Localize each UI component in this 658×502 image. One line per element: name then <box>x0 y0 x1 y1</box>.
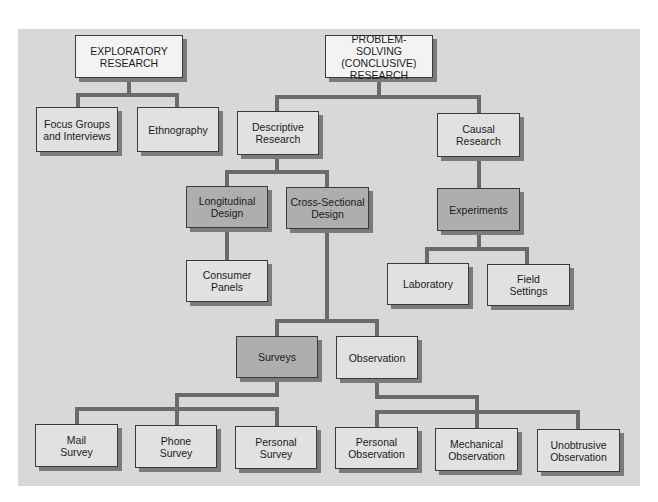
connector <box>175 93 179 107</box>
node-unobtrusive-observation: Unobtrusive Observation <box>537 429 620 472</box>
node-label: Laboratory <box>403 278 453 290</box>
connector <box>375 395 479 399</box>
connector <box>175 393 279 397</box>
connector <box>375 410 379 427</box>
node-label: Mechanical Observation <box>448 438 505 462</box>
connector <box>275 407 279 426</box>
connector <box>225 228 229 260</box>
node-mail-survey: Mail Survey <box>35 424 118 467</box>
node-longitudinal-design: Longitudinal Design <box>186 186 268 228</box>
node-label: Phone Survey <box>160 435 193 459</box>
connector <box>325 170 329 187</box>
node-phone-survey: Phone Survey <box>135 425 217 468</box>
connector <box>76 93 80 107</box>
connector <box>325 229 329 321</box>
node-label: Ethnography <box>148 124 208 136</box>
node-laboratory: Laboratory <box>387 263 469 305</box>
node-cross-sectional-design: Cross-Sectional Design <box>286 187 369 229</box>
connector <box>425 247 529 251</box>
node-personal-survey: Personal Survey <box>235 426 317 469</box>
node-exploratory-research: EXPLORATORY RESEARCH <box>75 35 183 78</box>
node-mechanical-observation: Mechanical Observation <box>435 428 518 471</box>
node-label: Cross-Sectional Design <box>290 196 364 220</box>
node-label: Personal Survey <box>255 436 296 460</box>
node-label: Longitudinal Design <box>199 195 256 219</box>
connector <box>75 407 79 424</box>
connector <box>75 407 279 411</box>
node-label: Unobtrusive Observation <box>550 439 607 463</box>
node-field-settings: Field Settings <box>487 264 570 306</box>
connector <box>525 247 529 264</box>
connector <box>477 95 481 113</box>
node-descriptive-research: Descriptive Research <box>237 111 319 155</box>
node-label: Descriptive Research <box>252 121 304 145</box>
connector <box>225 170 329 174</box>
node-problem-solving-research: PROBLEM-SOLVING (CONCLUSIVE) RESEARCH <box>325 35 433 78</box>
node-label: Experiments <box>449 204 507 216</box>
node-label: Focus Groups and Interviews <box>43 118 111 142</box>
connector <box>275 319 379 323</box>
node-label: Observation <box>349 352 406 364</box>
connector <box>76 93 179 97</box>
node-surveys: Surveys <box>236 336 318 378</box>
node-ethnography: Ethnography <box>137 107 219 152</box>
node-causal-research: Causal Research <box>437 113 520 157</box>
node-label: Field Settings <box>510 273 548 297</box>
connector <box>275 95 279 111</box>
connector <box>425 247 429 263</box>
connector <box>275 319 279 336</box>
connector <box>477 157 481 188</box>
node-label: Personal Observation <box>348 436 405 460</box>
node-label: Surveys <box>258 351 296 363</box>
node-label: PROBLEM-SOLVING (CONCLUSIVE) RESEARCH <box>329 33 429 81</box>
node-label: Consumer Panels <box>203 269 251 293</box>
node-label: Mail Survey <box>60 434 93 458</box>
connector <box>275 95 481 99</box>
node-personal-observation: Personal Observation <box>335 427 418 469</box>
node-observation: Observation <box>336 336 418 379</box>
node-focus-groups: Focus Groups and Interviews <box>36 107 118 152</box>
node-label: Causal Research <box>456 123 501 147</box>
connector <box>375 410 580 414</box>
node-consumer-panels: Consumer Panels <box>186 260 268 302</box>
connector <box>375 319 379 336</box>
connector <box>576 410 580 429</box>
node-experiments: Experiments <box>437 188 520 231</box>
node-label: EXPLORATORY RESEARCH <box>90 45 168 69</box>
connector <box>225 170 229 186</box>
